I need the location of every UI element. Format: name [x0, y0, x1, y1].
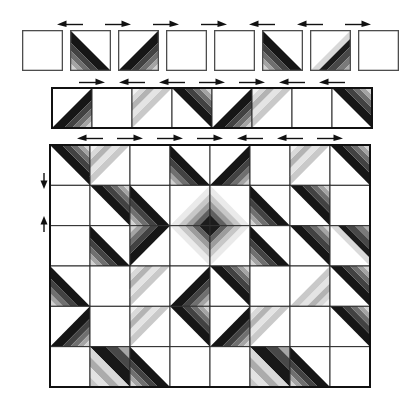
plain-block [167, 31, 207, 71]
press-arrow-right [317, 133, 343, 143]
string-triangle-block [170, 145, 210, 185]
press-arrow-right [201, 19, 227, 29]
string-triangle-block [52, 88, 92, 128]
string-triangle-block [90, 185, 130, 225]
plain-block [292, 88, 332, 128]
plain-block [330, 185, 370, 225]
string-triangle-block [71, 31, 111, 71]
press-arrow-right [199, 77, 225, 87]
string-triangle-block [330, 226, 370, 266]
string-triangle-block [212, 88, 252, 128]
string-triangle-block [90, 347, 130, 387]
string-triangle-block [330, 145, 370, 185]
press-arrow-left [159, 77, 185, 87]
press-arrow-left [77, 133, 103, 143]
press-arrow-left [279, 77, 305, 87]
press-arrow-left [277, 133, 303, 143]
press-arrow-right [157, 133, 183, 143]
press-arrow-left [319, 77, 345, 87]
string-triangle-block [250, 306, 290, 346]
press-arrow-right [105, 19, 131, 29]
string-triangle-block [170, 226, 210, 266]
string-triangle-block [210, 185, 250, 225]
string-triangle-block [130, 185, 170, 225]
string-triangle-block [250, 226, 290, 266]
plain-block [90, 266, 130, 306]
string-triangle-block [210, 266, 250, 306]
unit-block [310, 30, 351, 71]
plain-block [50, 226, 90, 266]
string-triangle-block [170, 306, 210, 346]
press-arrow-up [39, 216, 49, 232]
press-arrow-left [119, 77, 145, 87]
string-triangle-block [130, 226, 170, 266]
press-arrow-right [239, 77, 265, 87]
string-triangle-block [250, 185, 290, 225]
string-triangle-block [290, 185, 330, 225]
string-triangle-block [290, 266, 330, 306]
string-triangle-block [90, 226, 130, 266]
string-triangle-block [263, 31, 303, 71]
string-triangle-block [130, 266, 170, 306]
string-triangle-block [50, 306, 90, 346]
press-arrow-right [153, 19, 179, 29]
unit-block [262, 30, 303, 71]
press-arrow-down [39, 173, 49, 189]
string-triangle-block [50, 145, 90, 185]
plain-block [250, 266, 290, 306]
string-triangle-block [290, 145, 330, 185]
string-triangle-block [90, 145, 130, 185]
string-triangle-block [330, 306, 370, 346]
unit-block [22, 30, 63, 71]
string-triangle-block [250, 347, 290, 387]
press-arrow-left [57, 19, 83, 29]
string-triangle-block [50, 266, 90, 306]
plain-block [215, 31, 255, 71]
string-triangle-block [210, 145, 250, 185]
string-triangle-block [119, 31, 159, 71]
quilt-assembly-diagram [0, 0, 415, 406]
string-triangle-block [210, 306, 250, 346]
plain-block [250, 145, 290, 185]
string-triangle-block [252, 88, 292, 128]
plain-block [359, 31, 399, 71]
plain-block [170, 347, 210, 387]
string-triangle-block [210, 226, 250, 266]
string-triangle-block [290, 226, 330, 266]
press-arrow-right [79, 77, 105, 87]
plain-block [90, 306, 130, 346]
plain-block [50, 185, 90, 225]
press-arrow-left [297, 19, 323, 29]
plain-block [23, 31, 63, 71]
unit-block [118, 30, 159, 71]
string-triangle-block [130, 306, 170, 346]
sewn-row [51, 87, 373, 129]
string-triangle-block [132, 88, 172, 128]
press-arrow-right [345, 19, 371, 29]
string-triangle-block [332, 88, 372, 128]
unit-block [166, 30, 207, 71]
plain-block [50, 347, 90, 387]
string-triangle-block [170, 266, 210, 306]
string-triangle-block [311, 31, 351, 71]
press-arrow-right [197, 133, 223, 143]
unit-block [70, 30, 111, 71]
string-triangle-block [170, 185, 210, 225]
plain-block [92, 88, 132, 128]
plain-block [330, 347, 370, 387]
plain-block [130, 145, 170, 185]
unit-block [358, 30, 399, 71]
string-triangle-block [172, 88, 212, 128]
quilt-top [49, 144, 371, 388]
press-arrow-left [237, 133, 263, 143]
string-triangle-block [290, 347, 330, 387]
string-triangle-block [330, 266, 370, 306]
press-arrow-left [249, 19, 275, 29]
unit-block [214, 30, 255, 71]
plain-block [290, 306, 330, 346]
press-arrow-right [117, 133, 143, 143]
string-triangle-block [130, 347, 170, 387]
plain-block [210, 347, 250, 387]
